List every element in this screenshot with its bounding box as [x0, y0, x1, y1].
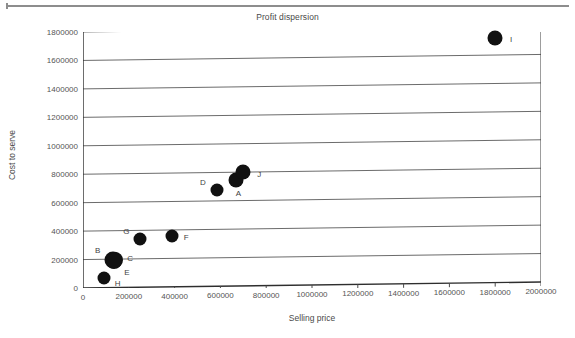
data-point-marker[interactable] [106, 253, 122, 269]
data-point-marker[interactable] [97, 271, 110, 284]
data-point-label: H [115, 278, 121, 287]
data-point-label: I [510, 34, 512, 43]
y-axis-tick-label: 1200000 [47, 113, 78, 122]
x-axis-tick-labels: 0200000400000600000800000100000012000001… [83, 293, 541, 307]
data-point-label: J [257, 170, 261, 179]
x-axis-tick-label: 600000 [207, 291, 234, 300]
data-point-label: C [127, 253, 133, 262]
y-axis-tick-label: 0 [74, 284, 78, 293]
x-axis-tick-label: 1800000 [480, 288, 511, 297]
data-point-label: A [236, 189, 241, 198]
y-axis-title: Cost to serve [7, 110, 17, 200]
data-point-marker[interactable] [236, 165, 251, 180]
data-point-marker[interactable] [134, 232, 147, 245]
x-axis-tick-label: 1600000 [434, 288, 465, 297]
y-axis-tick-label: 1400000 [47, 84, 78, 93]
x-axis-title: Selling price [83, 313, 541, 323]
y-axis-tick-label: 800000 [51, 170, 78, 179]
data-point-marker[interactable] [210, 183, 223, 196]
data-point-label: B [95, 245, 100, 254]
plot-gridlines-and-axes [83, 32, 541, 288]
data-point-label: D [200, 177, 206, 186]
x-axis-tick-label: 2000000 [525, 287, 556, 296]
x-axis-tick-label: 200000 [115, 292, 142, 301]
profit-dispersion-scatter-chart: Profit dispersion 0200000400000600000800… [0, 0, 575, 338]
data-point-marker[interactable] [488, 30, 503, 45]
x-axis-tick-label: 400000 [161, 292, 188, 301]
plot-area: ABCDEFGHIJ [83, 32, 541, 288]
x-axis-tick-label: 0 [81, 293, 85, 302]
x-axis-tick-label: 1000000 [296, 290, 327, 299]
y-axis-tick-label: 600000 [51, 198, 78, 207]
chart-title: Profit dispersion [0, 12, 575, 22]
y-axis-tick-label: 1600000 [47, 56, 78, 65]
y-axis-tick-label: 400000 [51, 227, 78, 236]
data-point-label: G [123, 226, 129, 235]
data-point-label: F [184, 233, 189, 242]
x-axis-tick-label: 1200000 [342, 289, 373, 298]
y-axis-tick-label: 200000 [51, 255, 78, 264]
y-axis-tick-label: 1000000 [47, 141, 78, 150]
x-axis-tick-label: 800000 [253, 291, 280, 300]
data-point-label: E [124, 268, 129, 277]
data-point-marker[interactable] [166, 230, 179, 243]
y-axis-tick-label: 1800000 [47, 28, 78, 37]
x-axis-tick-label: 1400000 [388, 289, 419, 298]
